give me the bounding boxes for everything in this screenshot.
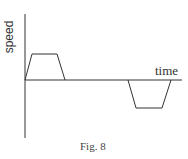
speed-time-graph bbox=[0, 0, 188, 159]
negative-pulse bbox=[128, 80, 171, 108]
figure-caption: Fig. 8 bbox=[80, 140, 106, 152]
y-axis-label: speed bbox=[5, 18, 19, 56]
positive-pulse bbox=[25, 54, 65, 80]
y-axis-label-text: speed bbox=[2, 21, 16, 54]
x-axis-label: time bbox=[155, 63, 178, 79]
